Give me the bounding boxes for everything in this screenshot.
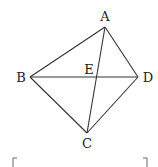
segments xyxy=(30,27,138,133)
right-bracket xyxy=(143,158,147,167)
diagonal-AC xyxy=(87,27,105,133)
label-E: E xyxy=(84,62,94,77)
segment-BC xyxy=(30,77,87,133)
segment-AD xyxy=(105,27,138,77)
label-D: D xyxy=(143,70,153,85)
answer-bracket xyxy=(13,158,147,167)
segment-AB xyxy=(30,27,105,77)
quadrilateral-diagram: A B C D E xyxy=(0,0,158,167)
left-bracket xyxy=(13,158,17,167)
labels: A B C D E xyxy=(16,9,153,151)
label-A: A xyxy=(99,9,110,24)
label-B: B xyxy=(16,70,26,85)
label-C: C xyxy=(82,136,92,151)
